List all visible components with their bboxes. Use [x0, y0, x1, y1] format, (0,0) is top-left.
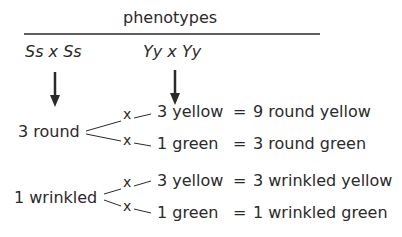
cross-left: Ss x Ss	[25, 44, 82, 60]
equals-sign: =	[233, 104, 246, 120]
result: 3 wrinkled yellow	[253, 173, 392, 189]
header-title: phenotypes	[123, 10, 217, 26]
equals-sign: =	[233, 173, 246, 189]
cross-marker: x	[123, 132, 131, 148]
branch-label-wrinkled: 1 wrinkled	[14, 190, 97, 206]
factor: 3 yellow	[157, 104, 223, 120]
branch-label-round: 3 round	[18, 124, 80, 140]
equals-sign: =	[233, 205, 246, 221]
result: 1 wrinkled green	[253, 205, 388, 221]
factor: 3 yellow	[157, 173, 223, 189]
result: 3 round green	[253, 136, 366, 152]
cross-marker: x	[123, 198, 131, 214]
branch-lines-round	[86, 114, 151, 146]
factor: 1 green	[157, 136, 218, 152]
equals-sign: =	[233, 136, 246, 152]
arrow-down-icon-right	[170, 70, 180, 105]
result: 9 round yellow	[253, 104, 371, 120]
arrow-down-icon-left	[50, 72, 60, 107]
factor: 1 green	[157, 205, 218, 221]
cross-marker: x	[123, 174, 131, 190]
cross-marker: x	[123, 106, 131, 122]
cross-right: Yy x Yy	[143, 44, 201, 60]
